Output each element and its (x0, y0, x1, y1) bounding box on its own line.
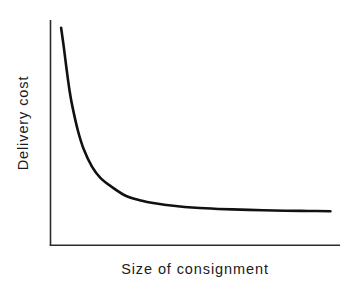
cost-curve (61, 28, 330, 211)
chart-figure: Delivery cost Size of consignment (0, 0, 358, 295)
y-axis-label: Delivery cost (15, 75, 31, 170)
y-axis-label-container: Delivery cost (0, 0, 46, 245)
x-axis-label-container: Size of consignment (50, 260, 340, 290)
chart-plot-area (0, 0, 358, 295)
x-axis-label: Size of consignment (121, 261, 269, 277)
